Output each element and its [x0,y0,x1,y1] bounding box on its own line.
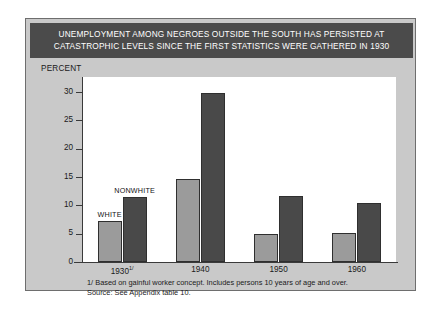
x-label-1940: 1940 [160,265,240,274]
chart-figure: UNEMPLOYMENT AMONG NEGROES OUTSIDE THE S… [25,18,416,291]
series-label-white: WHITE [98,210,122,219]
bar-white-1930 [98,221,122,262]
bar-white-1950 [254,234,278,262]
x-axis-line [74,262,398,263]
y-axis-line [82,77,83,263]
bar-white-1940 [176,179,200,262]
x-label-1950: 1950 [239,265,319,274]
y-axis-label: PERCENT [41,64,82,73]
bar-white-1960 [332,233,356,262]
x-label-text: 1940 [191,265,209,274]
chart-title: UNEMPLOYMENT AMONG NEGROES OUTSIDE THE S… [48,29,396,52]
y-tick-label: 5 [68,228,73,237]
y-tick-label: 0 [68,257,73,266]
y-tick-20: 20 [76,149,82,150]
y-tick-5: 5 [76,234,82,235]
x-label-footnote-marker: 1/ [129,265,134,271]
x-label-1960: 1960 [317,265,397,274]
y-tick-15: 15 [76,177,82,178]
y-tick-label: 25 [64,115,73,124]
chart-title-band: UNEMPLOYMENT AMONG NEGROES OUTSIDE THE S… [30,23,413,58]
x-label-text: 1930 [111,267,129,276]
chart-panel: PERCENT 051015202530 WHITENONWHITE 19301… [30,61,413,288]
y-tick-label: 10 [64,200,73,209]
bar-nonwhite-1940 [201,93,225,262]
bar-nonwhite-1950 [279,196,303,262]
y-tick-label: 30 [64,87,73,96]
series-label-nonwhite: NONWHITE [114,186,155,195]
chart-footnotes: 1/ Based on gainful worker concept. Incl… [87,278,348,297]
bar-nonwhite-1930 [123,197,147,262]
y-tick-25: 25 [76,120,82,121]
x-label-1930: 19301/ [82,265,162,276]
y-tick-10: 10 [76,205,82,206]
y-tick-label: 20 [64,143,73,152]
x-label-text: 1960 [348,265,366,274]
bar-nonwhite-1960 [357,203,381,263]
y-tick-30: 30 [76,92,82,93]
y-tick-0: 0 [76,262,82,263]
y-tick-label: 15 [64,172,73,181]
x-label-text: 1950 [270,265,288,274]
